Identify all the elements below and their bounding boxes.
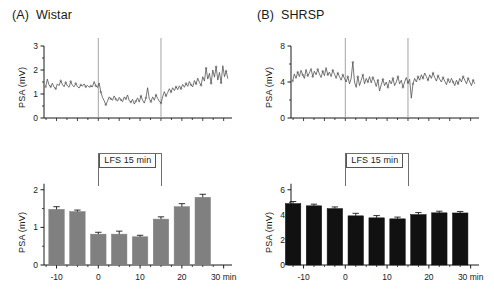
panel-a: (A)Wistar PSA (mV) 0123 LFS 15 min PSA (… [0, 0, 247, 306]
y-tick-label: 1 [33, 89, 38, 99]
bar [174, 207, 189, 265]
y-tick-label: 0 [280, 113, 285, 123]
x-tick-label: 30 min [458, 272, 484, 282]
y-tick-label: 0 [33, 113, 38, 123]
bar [91, 234, 106, 265]
bar [132, 237, 147, 265]
bar [111, 234, 126, 265]
y-tick-label: 2 [280, 235, 285, 245]
bar [327, 209, 342, 265]
panel-b-timeseries-svg: 048 [247, 0, 494, 150]
bar [285, 204, 300, 265]
panel-b: (B)SHRSP PSA (mV) 048 LFS 15 min PSA (mV… [247, 0, 494, 306]
y-tick-label: 2 [33, 65, 38, 75]
x-tick-label: 0 [96, 272, 101, 282]
y-tick-label: 8 [280, 41, 285, 51]
panel-b-timeseries-plot: PSA (mV) 048 [247, 0, 494, 150]
figure-root: (A)Wistar PSA (mV) 0123 LFS 15 min PSA (… [0, 0, 494, 306]
x-tick-label: 10 [135, 272, 145, 282]
y-tick-label: 3 [33, 41, 38, 51]
panel-a-timeseries-svg: 0123 [0, 0, 247, 150]
y-tick-label: 4 [280, 210, 285, 220]
panel-a-timeseries-plot: PSA (mV) 0123 [0, 0, 247, 150]
bar [411, 215, 426, 265]
x-tick-label: -10 [50, 272, 63, 282]
bar [369, 218, 384, 265]
panel-a-bar-svg: 012-100102030 min [0, 150, 247, 306]
y-tick-label: 4 [280, 77, 285, 87]
bar [70, 212, 85, 265]
panel-a-bar-plot: PSA (mV) 012-100102030 min [0, 150, 247, 306]
bar [153, 219, 168, 265]
panel-b-bar-plot: PSA (mV) 0246-100102030 min [247, 150, 494, 306]
panel-b-bar-svg: 0246-100102030 min [247, 150, 494, 306]
bar [390, 219, 405, 265]
bar [49, 209, 64, 265]
bar [432, 213, 447, 265]
y-tick-label: 6 [280, 185, 285, 195]
y-tick-label: 1 [33, 222, 38, 232]
bar [452, 213, 467, 265]
y-tick-label: 2 [33, 185, 38, 195]
bar [348, 216, 363, 265]
bar [195, 197, 210, 265]
x-tick-label: 30 min [211, 272, 237, 282]
x-tick-label: 20 [424, 272, 434, 282]
y-tick-label: 0 [33, 260, 38, 270]
timeseries-trace [46, 66, 228, 105]
y-tick-label: 0 [280, 260, 285, 270]
x-tick-label: 10 [382, 272, 392, 282]
bar [306, 206, 321, 265]
x-tick-label: 20 [177, 272, 187, 282]
x-tick-label: -10 [297, 272, 310, 282]
x-tick-label: 0 [343, 272, 348, 282]
